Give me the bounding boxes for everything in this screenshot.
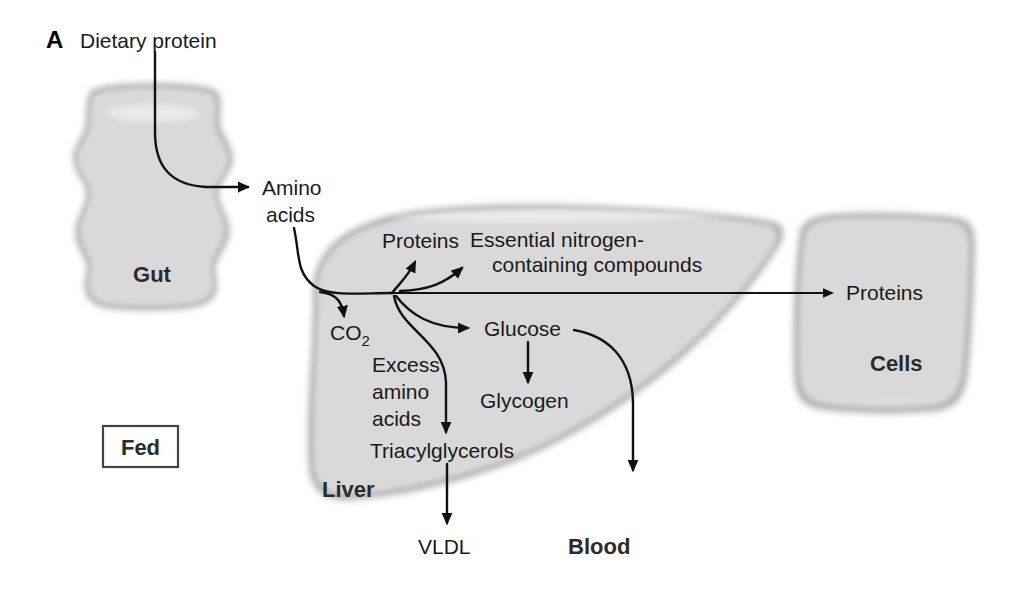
label-proteins-liver: Proteins <box>382 229 459 252</box>
state-box-fed: Fed <box>103 426 178 467</box>
label-glycogen: Glycogen <box>480 389 569 412</box>
organ-label-gut: Gut <box>133 262 172 287</box>
fed-box-label: Fed <box>121 435 160 460</box>
figure-panel-a: Gut Liver Cells Blood A Fed <box>0 0 1011 601</box>
organ-cells: Cells <box>793 213 975 414</box>
label-proteins-cells: Proteins <box>846 281 923 304</box>
label-essential-compounds-line1: Essential nitrogen- <box>470 228 644 251</box>
organ-label-cells: Cells <box>870 351 923 376</box>
organ-gut: Gut <box>73 83 233 311</box>
label-triacylglycerols: Triacylglycerols <box>370 439 514 462</box>
label-dietary-protein: Dietary protein <box>80 29 217 52</box>
label-essential-compounds-line2: containing compounds <box>492 253 702 276</box>
label-amino-acids-line1: Amino <box>262 176 322 199</box>
label-co2-subscript: 2 <box>362 332 370 349</box>
organ-label-blood: Blood <box>568 534 630 559</box>
label-excess-amino-acids-line2: amino <box>372 380 429 403</box>
cells-shape <box>799 218 969 408</box>
label-excess-amino-acids-line3: acids <box>372 407 421 430</box>
label-glucose: Glucose <box>484 317 561 340</box>
panel-letter: A <box>46 26 63 53</box>
label-excess-amino-acids-line1: Excess <box>372 353 440 376</box>
label-vldl: VLDL <box>418 535 471 558</box>
organ-label-liver: Liver <box>322 477 375 502</box>
label-amino-acids-line2: acids <box>266 203 315 226</box>
label-co2-text: CO <box>330 321 362 344</box>
